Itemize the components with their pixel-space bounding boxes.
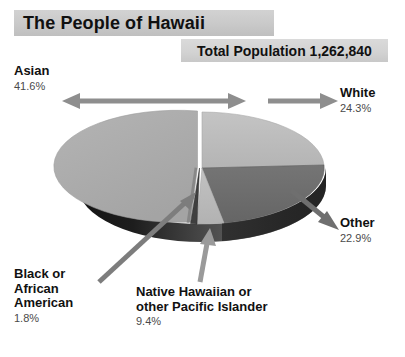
callout-black-name-line1: Black or (14, 267, 73, 282)
arrow-asian (62, 93, 246, 109)
callout-black-name-line3: American (14, 296, 73, 311)
callout-other: Other 22.9% (340, 216, 375, 245)
callout-asian-name: Asian (14, 64, 49, 79)
callout-black-african-american: Black or African American 1.8% (14, 267, 73, 325)
callout-other-percent: 22.9% (340, 232, 375, 245)
callout-black-percent: 1.8% (14, 312, 73, 325)
callout-white: White 24.3% (340, 86, 375, 115)
callout-asian-percent: 41.6% (14, 80, 49, 93)
callout-native-hawaiian: Native Hawaiian or other Pacific Islande… (136, 285, 268, 328)
callout-black-name-line2: African (14, 282, 73, 297)
callout-nhpi-name-line1: Native Hawaiian or (136, 285, 268, 300)
callout-other-name: Other (340, 216, 375, 231)
callout-asian: Asian 41.6% (14, 64, 49, 93)
callout-white-percent: 24.3% (340, 102, 375, 115)
callout-nhpi-percent: 9.4% (136, 315, 268, 328)
callout-nhpi-name-line2: other Pacific Islander (136, 300, 268, 315)
pie-slice-asian[interactable] (54, 110, 198, 222)
pie-slice-white[interactable] (202, 112, 324, 168)
callout-white-name: White (340, 86, 375, 101)
arrow-white (268, 93, 338, 109)
infographic-root: The People of Hawaii Total Population 1,… (0, 0, 405, 357)
